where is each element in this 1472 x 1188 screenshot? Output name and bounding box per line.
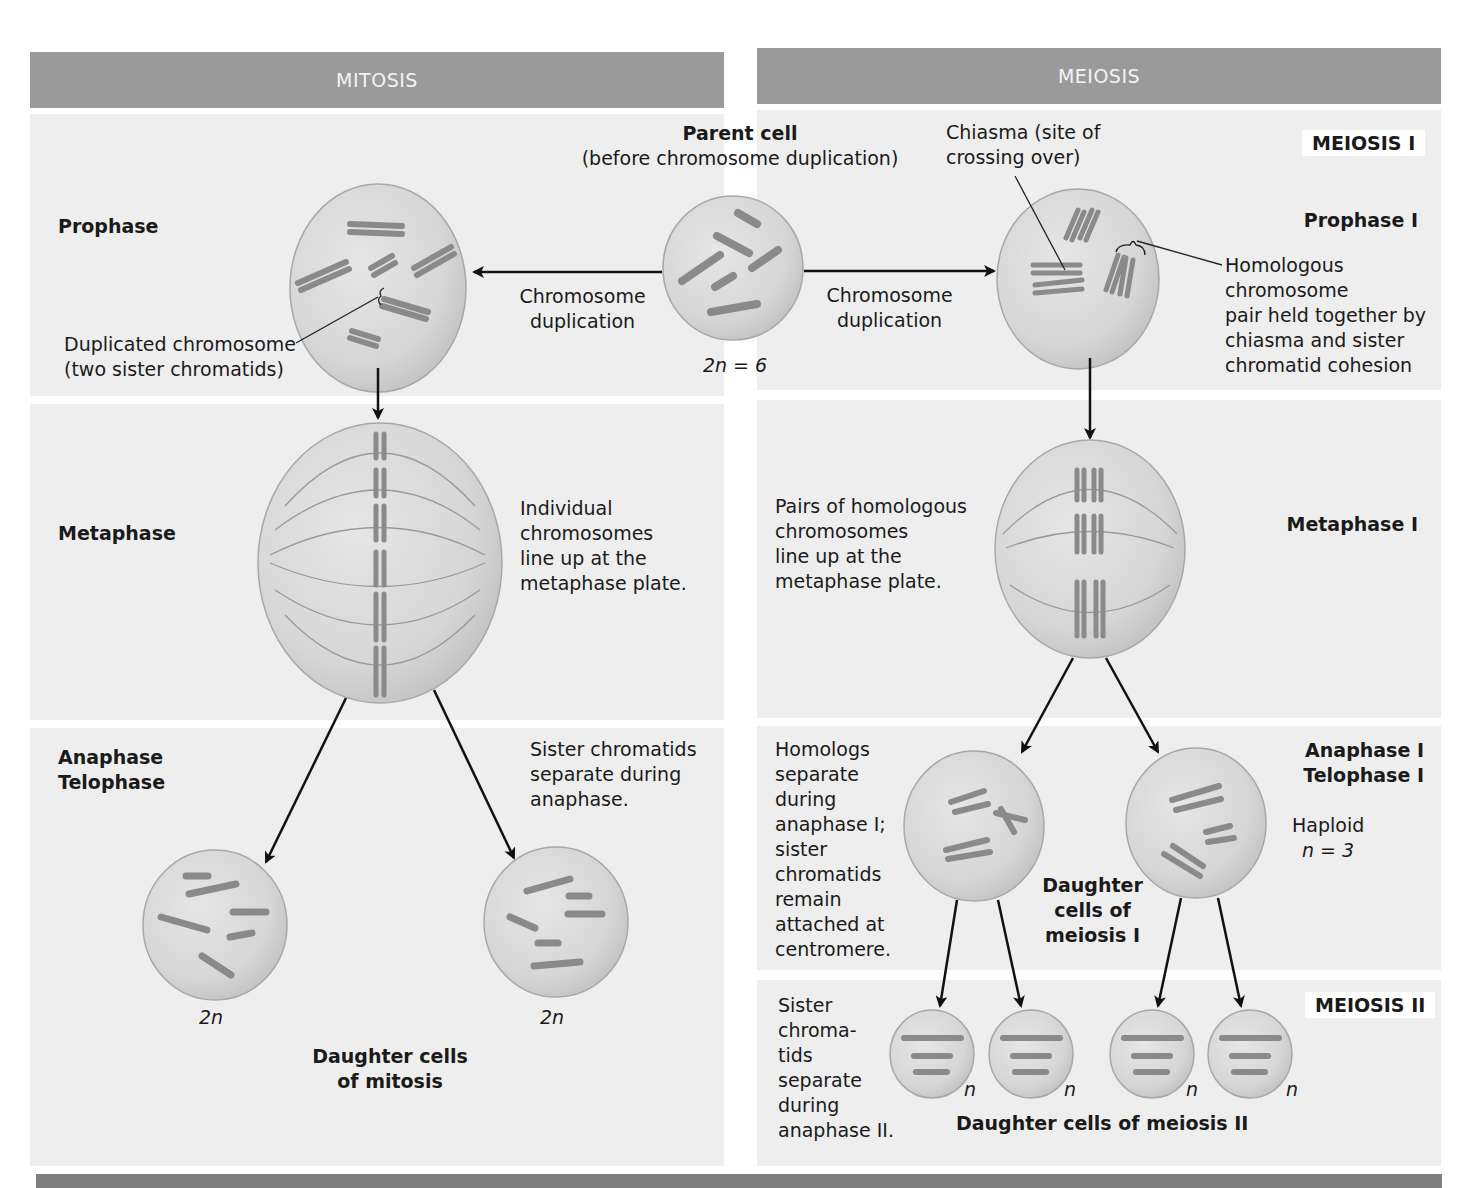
metaphase-one-note-4: metaphase plate. xyxy=(775,569,942,594)
mitosis-daughter-ploidy-right: 2n xyxy=(540,1005,564,1030)
metaphase-note-4: metaphase plate. xyxy=(520,571,687,596)
metaphase-one-note-3: line up at the xyxy=(775,544,902,569)
meiosis-two-note-2: chroma- xyxy=(778,1018,857,1043)
meiosis-one-caption-3: meiosis I xyxy=(1020,923,1165,948)
stage-label-metaphase: Metaphase xyxy=(58,521,176,546)
meiosis-two-note-6: anaphase II. xyxy=(778,1118,894,1143)
stage-label-prophase-one: Prophase I xyxy=(1250,208,1418,233)
metaphase-note-2: chromosomes xyxy=(520,521,653,546)
stage-label-telophase-one: Telophase I xyxy=(1230,763,1424,788)
mitosis-daughter-cell-left xyxy=(143,850,287,1000)
homolog-callout-5: chromatid cohesion xyxy=(1225,353,1412,378)
stage-label-anaphase-one: Anaphase I xyxy=(1230,738,1424,763)
metaphase-one-note-2: chromosomes xyxy=(775,519,908,544)
parent-cell-subtitle: (before chromosome duplication) xyxy=(570,146,910,171)
metaphase-note-3: line up at the xyxy=(520,546,647,571)
anaphase-one-note-8: attached at xyxy=(775,912,885,937)
meiosis-metaphase-cell xyxy=(995,440,1185,658)
meiosis-two-ploidy-4: n xyxy=(1286,1077,1298,1102)
meiosis-two-note-3: tids xyxy=(778,1043,813,1068)
meiosis-two-ploidy-2: n xyxy=(1064,1077,1076,1102)
stage-label-prophase: Prophase xyxy=(58,214,159,239)
meiosis-two-ploidy-1: n xyxy=(964,1077,976,1102)
meiosis-two-daughter-1 xyxy=(890,1010,974,1098)
mitosis-daughter-ploidy-left: 2n xyxy=(199,1005,223,1030)
stage-label-metaphase-one: Metaphase I xyxy=(1230,512,1418,537)
meiosis-two-note-5: during xyxy=(778,1093,839,1118)
meiosis-one-caption-1: Daughter xyxy=(1020,873,1165,898)
anaphase-one-note-7: remain xyxy=(775,887,842,912)
homolog-callout-3: pair held together by xyxy=(1225,303,1426,328)
meiosis-prophase-cell xyxy=(997,176,1222,369)
chiasma-callout-1: Chiasma (site of xyxy=(946,120,1100,145)
meiosis-two-ploidy-3: n xyxy=(1186,1077,1198,1102)
duplicated-chromosome-callout-1: Duplicated chromosome xyxy=(64,332,296,357)
anaphase-one-note-4: anaphase I; xyxy=(775,812,886,837)
anaphase-note-3: anaphase. xyxy=(530,787,629,812)
meiosis-one-tag: MEIOSIS I xyxy=(1302,130,1425,156)
anaphase-note-1: Sister chromatids xyxy=(530,737,697,762)
anaphase-one-note-2: separate xyxy=(775,762,859,787)
left-duplication-label-2: duplication xyxy=(505,309,660,334)
right-duplication-label-1: Chromosome xyxy=(812,283,967,308)
meiosis-two-note-4: separate xyxy=(778,1068,862,1093)
mitosis-daughter-caption-2: of mitosis xyxy=(290,1069,490,1094)
parent-cell-ploidy: 2n = 6 xyxy=(690,353,780,378)
right-duplication-label-2: duplication xyxy=(812,308,967,333)
homolog-callout-4: chiasma and sister xyxy=(1225,328,1404,353)
anaphase-one-note-5: sister xyxy=(775,837,827,862)
parent-cell-title: Parent cell xyxy=(600,121,880,146)
duplicated-chromosome-callout-2: (two sister chromatids) xyxy=(64,357,284,382)
left-duplication-label-1: Chromosome xyxy=(505,284,660,309)
homolog-callout-2: chromosome xyxy=(1225,278,1348,303)
meiosis-one-caption-2: cells of xyxy=(1020,898,1165,923)
anaphase-one-note-6: chromatids xyxy=(775,862,881,887)
metaphase-one-note-1: Pairs of homologous xyxy=(775,494,967,519)
mitosis-prophase-cell xyxy=(290,184,466,392)
meiosis-two-note-1: Sister xyxy=(778,993,832,1018)
homolog-callout-1: Homologous xyxy=(1225,253,1344,278)
meiosis-two-tag-label: MEIOSIS II xyxy=(1315,994,1425,1016)
parent-cell xyxy=(663,196,803,340)
chiasma-callout-2: crossing over) xyxy=(946,145,1080,170)
meiosis-two-caption: Daughter cells of meiosis II xyxy=(956,1111,1248,1136)
anaphase-one-note-9: centromere. xyxy=(775,937,891,962)
meiosis-one-tag-label: MEIOSIS I xyxy=(1312,132,1415,154)
haploid-count: n = 3 xyxy=(1302,838,1354,863)
meiosis-two-daughter-3 xyxy=(1110,1010,1194,1098)
stage-label-anaphase: Anaphase xyxy=(58,745,163,770)
anaphase-one-note-3: during xyxy=(775,787,836,812)
metaphase-note-1: Individual xyxy=(520,496,613,521)
meiosis-two-daughter-4 xyxy=(1208,1010,1292,1098)
stage-label-telophase: Telophase xyxy=(58,770,165,795)
anaphase-one-note-1: Homologs xyxy=(775,737,870,762)
anaphase-note-2: separate during xyxy=(530,762,681,787)
mitosis-daughter-cell-right xyxy=(484,847,628,997)
haploid-label: Haploid xyxy=(1292,813,1364,838)
mitosis-daughter-caption-1: Daughter cells xyxy=(290,1044,490,1069)
meiosis-two-daughter-2 xyxy=(989,1010,1073,1098)
mitosis-metaphase-cell xyxy=(258,423,502,703)
meiosis-two-tag: MEIOSIS II xyxy=(1305,992,1435,1018)
